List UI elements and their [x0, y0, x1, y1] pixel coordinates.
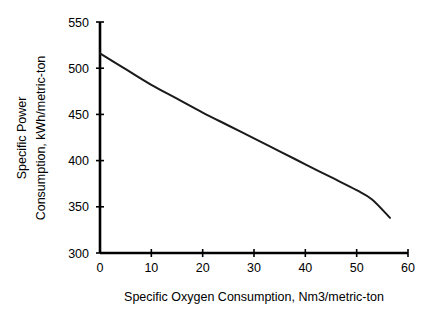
x-tick-label-60: 60: [401, 261, 415, 275]
x-tick-label-40: 40: [298, 261, 312, 275]
y-tick-label-450: 450: [68, 108, 89, 122]
x-axis-title: Specific Oxygen Consumption, Nm3/metric-…: [124, 290, 384, 304]
x-tick-label-20: 20: [196, 261, 210, 275]
x-tick-label-50: 50: [350, 261, 364, 275]
y-tick-label-550: 550: [68, 16, 89, 30]
y-tick-label-500: 500: [68, 62, 89, 76]
x-tick-label-30: 30: [247, 261, 261, 275]
line-chart-plot: 300350400450500550 0102030405060 Specifi…: [0, 0, 434, 323]
data-series-line: [100, 53, 390, 217]
y-tick-label-400: 400: [68, 154, 89, 168]
y-tick-label-350: 350: [68, 200, 89, 214]
x-axis-tick-labels: 0102030405060: [97, 261, 415, 275]
y-axis-title-line1: Specific Power: [15, 97, 29, 180]
y-axis-tick-labels: 300350400450500550: [68, 16, 89, 261]
y-axis-title-line2: Consumption, kWh/metric-ton: [34, 56, 48, 221]
x-tick-label-0: 0: [97, 261, 104, 275]
x-tick-label-10: 10: [144, 261, 158, 275]
y-tick-label-300: 300: [68, 247, 89, 261]
chart-container: 300350400450500550 0102030405060 Specifi…: [0, 0, 434, 323]
